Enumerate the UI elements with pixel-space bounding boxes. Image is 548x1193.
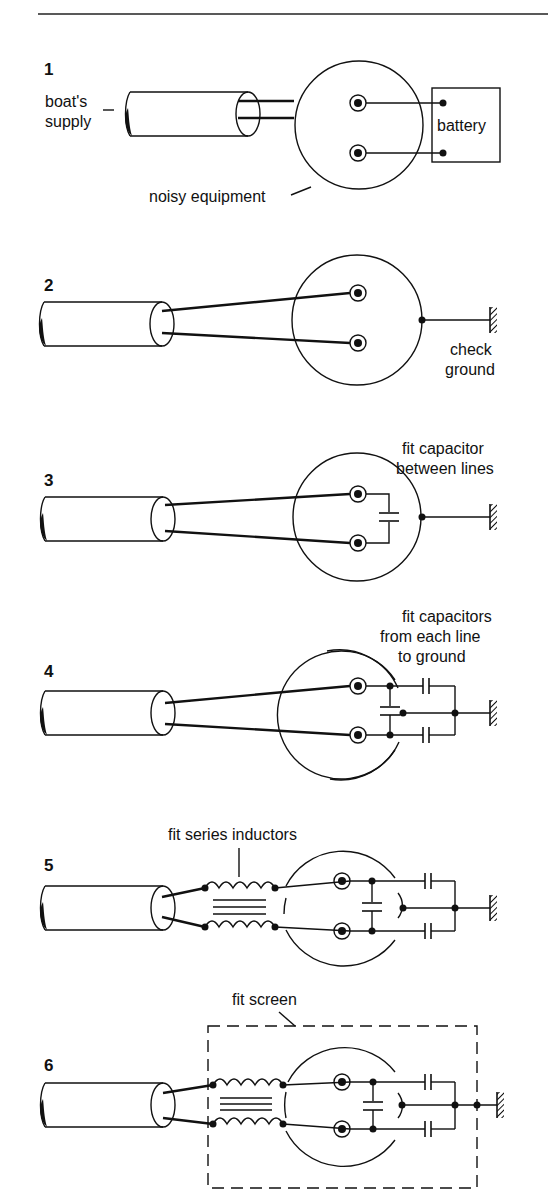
screen-note: fit screen: [232, 991, 297, 1008]
ground-label-line2: ground: [445, 361, 495, 378]
noise-suppression-diagram: 1 boat's supply battery noisy equipment …: [0, 0, 548, 1193]
step-6: 6 fit screen: [40, 991, 504, 1188]
ground-caps-note-line2: from each line: [380, 628, 481, 645]
step-2: 2 check ground: [39, 255, 497, 385]
step-number: 2: [44, 276, 53, 295]
supply-label-line2: supply: [45, 113, 91, 130]
step-number: 6: [44, 1056, 53, 1075]
step-4: 4 fit capacitors from each line to groun…: [40, 608, 497, 780]
step-number: 3: [44, 471, 53, 490]
battery-label: battery: [437, 117, 486, 134]
ground-caps-note-line3: to ground: [398, 648, 466, 665]
step-1: 1 boat's supply battery noisy equipment: [44, 60, 500, 205]
step-number: 4: [44, 662, 54, 681]
ground-label-line1: check: [450, 341, 493, 358]
step-number: 5: [44, 856, 53, 875]
inductors-note: fit series inductors: [168, 826, 297, 843]
supply-label-line1: boat's: [45, 93, 87, 110]
capacitor-note-line2: between lines: [396, 460, 494, 477]
screen-box: [208, 1026, 477, 1188]
noisy-equipment-circle: [295, 61, 423, 189]
ground-caps-note-line1: fit capacitors: [402, 608, 492, 625]
step-3: 3 fit capacitor between lines: [40, 440, 497, 581]
supply-cable: [125, 92, 260, 136]
step-5: 5 fit series inductors: [40, 826, 497, 966]
capacitor-note-line1: fit capacitor: [402, 440, 484, 457]
step-number: 1: [44, 60, 53, 79]
equipment-label: noisy equipment: [149, 188, 266, 205]
